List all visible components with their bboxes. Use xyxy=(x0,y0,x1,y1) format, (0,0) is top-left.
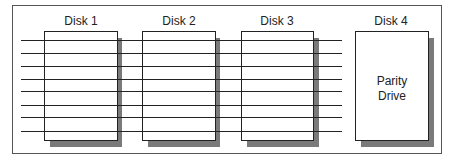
stripe-line xyxy=(21,131,342,132)
stripe-line xyxy=(21,66,342,67)
disk-2-label: Disk 2 xyxy=(139,14,219,28)
disk-4-label: Disk 4 xyxy=(351,14,431,28)
parity-line-1: Parity xyxy=(355,74,429,89)
stripe-line xyxy=(21,40,342,41)
disk-3 xyxy=(241,31,314,141)
stripe-line xyxy=(21,53,342,54)
stripe-line xyxy=(21,79,342,80)
parity-drive-label: Parity Drive xyxy=(355,74,429,104)
stripe-line xyxy=(21,91,342,92)
stripe-line xyxy=(21,117,342,118)
disk-1 xyxy=(44,31,118,141)
parity-line-2: Drive xyxy=(355,89,429,104)
disk-2 xyxy=(142,31,216,141)
stripe-line xyxy=(21,105,342,106)
disk-3-label: Disk 3 xyxy=(237,14,317,28)
disk-1-label: Disk 1 xyxy=(41,14,121,28)
